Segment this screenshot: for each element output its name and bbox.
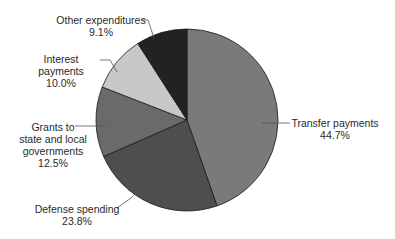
label-grants: Grants to state and local governments 12… (18, 121, 88, 169)
label-transfer: Transfer payments 44.7% (290, 117, 380, 141)
label-other: Other expenditures 9.1% (55, 14, 147, 38)
label-interest: Interest payments 10.0% (20, 53, 102, 89)
pie-slices (96, 29, 278, 211)
label-defense: Defense spending 23.8% (34, 203, 120, 227)
